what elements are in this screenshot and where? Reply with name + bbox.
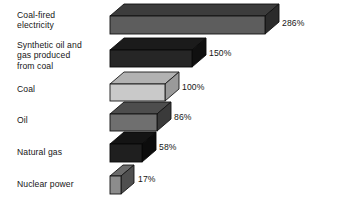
bar-chart: Coal-fired electricity286%Synthetic oil …: [0, 0, 337, 203]
bar-top-face: [110, 4, 279, 16]
bar-3d: [110, 132, 156, 162]
bar-3d: [110, 72, 179, 101]
category-label: Coal-fired electricity: [17, 10, 109, 31]
bar-front-face: [110, 176, 121, 194]
bar-3d: [110, 38, 206, 67]
bar-front-face: [110, 144, 142, 162]
bar-3d: [110, 165, 134, 194]
bar-front-face: [110, 84, 165, 101]
category-label: Nuclear power: [17, 179, 109, 189]
value-label: 100%: [182, 82, 204, 92]
value-label: 17%: [138, 174, 156, 184]
value-label: 150%: [209, 48, 231, 58]
bar-front-face: [110, 16, 265, 34]
bar-front-face: [110, 114, 157, 131]
bar-front-face: [110, 50, 192, 67]
category-label: Coal: [17, 84, 109, 94]
bar-3d: [110, 4, 279, 34]
value-label: 58%: [159, 142, 177, 152]
value-label: 86%: [174, 112, 192, 122]
category-label: Natural gas: [17, 147, 109, 157]
bar-3d: [110, 102, 171, 131]
category-label: Oil: [17, 115, 109, 125]
bar-top-face: [110, 38, 206, 50]
value-label: 286%: [282, 18, 304, 28]
category-label: Synthetic oil and gas produced from coal: [17, 40, 109, 71]
